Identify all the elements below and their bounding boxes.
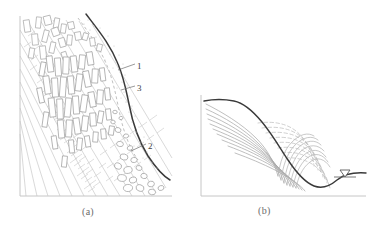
panel-a-label-2: 2: [148, 141, 153, 151]
panel-a-label-1: 1: [137, 61, 142, 71]
panel-a-caption: (a): [82, 206, 94, 217]
two-panel-slope-figure: [0, 0, 379, 234]
panel-a-label-3: 3: [137, 83, 142, 93]
panel-b-caption: (b): [258, 205, 271, 216]
